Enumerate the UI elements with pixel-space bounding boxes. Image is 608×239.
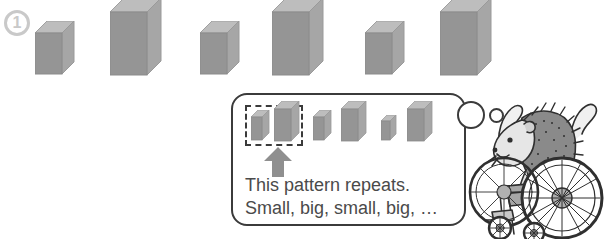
hedgehog-in-wheelchair-illustration <box>466 94 608 239</box>
pattern-block-small <box>365 33 392 75</box>
mini-block-big <box>407 109 424 141</box>
cuboid-shape-icon <box>341 101 367 142</box>
pattern-block-big <box>272 12 309 75</box>
mini-block-big <box>341 109 358 141</box>
cuboid-shape-icon <box>440 0 492 76</box>
cuboid-shape-icon <box>251 110 270 141</box>
cuboid-shape-icon <box>313 110 332 141</box>
callout-line-1: This pattern repeats. <box>245 174 461 197</box>
cuboid-shape-icon <box>381 115 397 141</box>
cuboid-shape-icon <box>35 21 75 75</box>
cuboid-shape-icon <box>407 101 433 142</box>
callout-bubble: This pattern repeats. Small, big, small,… <box>231 93 466 226</box>
question-number-badge: 1 <box>4 10 30 36</box>
mini-block-small <box>313 117 325 141</box>
cuboid-shape-icon <box>365 21 405 75</box>
mini-block-small <box>381 121 391 141</box>
cuboid-shape-icon <box>274 101 300 142</box>
pattern-block-small <box>35 33 62 75</box>
callout-line-2: Small, big, small, big, … <box>245 197 461 220</box>
worksheet-page: 1 <box>0 0 608 239</box>
pattern-block-small <box>200 33 227 75</box>
arrow-up-icon <box>264 147 292 177</box>
pattern-block-big <box>110 12 147 75</box>
mini-block-small <box>251 117 263 141</box>
cuboid-shape-icon <box>110 0 162 76</box>
cuboid-shape-icon <box>272 0 324 76</box>
mini-block-big <box>274 109 291 141</box>
pattern-block-big <box>440 12 477 75</box>
callout-text-block: This pattern repeats. Small, big, small,… <box>245 174 461 220</box>
cuboid-shape-icon <box>200 21 240 75</box>
